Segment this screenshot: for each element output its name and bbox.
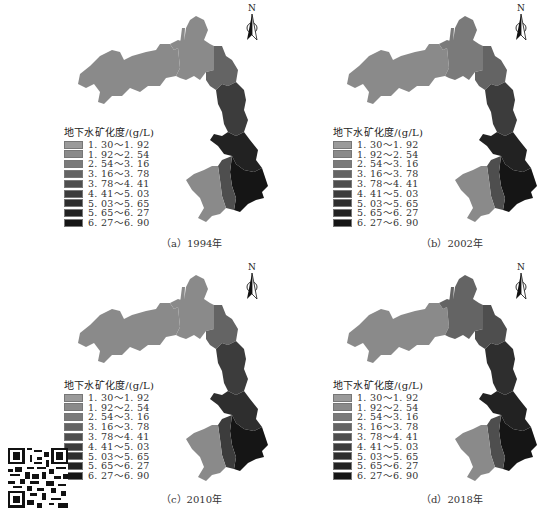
panel-caption-a: （a）1994年 [161, 235, 222, 250]
legend-swatch [333, 403, 352, 411]
legend-rows: 1. 30～1. 921. 92～2. 542. 54～3. 163. 16～3… [333, 140, 423, 228]
north-label: N [240, 262, 264, 272]
legend-swatch [64, 150, 83, 158]
north-arrow: N [509, 263, 533, 303]
legend-swatch [64, 433, 83, 441]
legend-label: 6. 27～6. 90 [88, 218, 150, 228]
legend-item: 6. 27～6. 90 [64, 218, 154, 228]
legend-swatch [333, 462, 352, 470]
legend: 地下水矿化度/(g/L) 1. 30～1. 921. 92～2. 542. 54… [64, 128, 154, 228]
legend-item: 6. 27～6. 90 [333, 471, 423, 481]
legend: 地下水矿化度/(g/L) 1. 30～1. 921. 92～2. 542. 54… [333, 128, 423, 228]
legend-swatch [333, 433, 352, 441]
legend-swatch [64, 160, 83, 168]
map-panel-b: N 地下水矿化度/(g/L) 1. 30～1. 921. 92～2. 542. … [269, 0, 537, 259]
legend-swatch [333, 443, 352, 451]
legend-swatch [64, 180, 83, 188]
panel-caption-b: （b）2002年 [421, 235, 483, 250]
legend-item: 6. 27～6. 90 [333, 218, 423, 228]
zone-east-upper [485, 341, 517, 395]
legend-swatch [64, 403, 83, 411]
panel-caption-d: （d）2018年 [421, 491, 483, 506]
qr-code[interactable] [8, 447, 68, 508]
legend-title: 地下水矿化度/(g/L) [333, 128, 423, 138]
legend-swatch [64, 199, 83, 207]
legend-title: 地下水矿化度/(g/L) [64, 381, 154, 391]
legend-swatch [333, 452, 352, 460]
zone-west [347, 44, 449, 104]
legend-swatch [333, 170, 352, 178]
zone-west [347, 303, 449, 363]
legend-swatch [64, 413, 83, 421]
legend-swatch [64, 394, 83, 402]
legend-label: 6. 27～6. 90 [357, 471, 419, 481]
zone-east-upper [216, 341, 248, 395]
legend-item: 6. 27～6. 90 [64, 471, 154, 481]
legend-swatch [64, 209, 83, 217]
legend-swatch [64, 141, 83, 149]
zone-west [78, 44, 180, 104]
legend-swatch [333, 160, 352, 168]
legend-swatch [333, 180, 352, 188]
map-panel-d: N 地下水矿化度/(g/L) 1. 30～1. 921. 92～2. 542. … [269, 259, 537, 518]
legend-swatch [333, 199, 352, 207]
legend-swatch [333, 413, 352, 421]
legend-swatch [333, 150, 352, 158]
legend-swatch [333, 472, 352, 480]
legend-swatch [333, 219, 352, 227]
zone-east-upper [485, 82, 517, 136]
legend-rows: 1. 30～1. 921. 92～2. 542. 54～3. 163. 16～3… [64, 140, 154, 228]
legend: 地下水矿化度/(g/L) 1. 30～1. 921. 92～2. 542. 54… [333, 381, 423, 481]
legend-swatch [333, 209, 352, 217]
legend: 地下水矿化度/(g/L) 1. 30～1. 921. 92～2. 542. 54… [64, 381, 154, 481]
legend-swatch [333, 423, 352, 431]
north-label: N [509, 262, 533, 272]
zone-west [78, 303, 180, 363]
legend-rows: 1. 30～1. 921. 92～2. 542. 54～3. 163. 16～3… [333, 393, 423, 481]
legend-title: 地下水矿化度/(g/L) [333, 381, 423, 391]
legend-label: 6. 27～6. 90 [357, 218, 419, 228]
panel-caption-c: （c）2010年 [161, 491, 222, 506]
legend-rows: 1. 30～1. 921. 92～2. 542. 54～3. 163. 16～3… [64, 393, 154, 481]
north-label: N [240, 3, 264, 13]
legend-swatch [333, 190, 352, 198]
legend-label: 6. 27～6. 90 [88, 471, 150, 481]
north-arrow: N [240, 263, 264, 303]
legend-swatch [64, 423, 83, 431]
legend-swatch [64, 219, 83, 227]
map-panel-a: N 地下水矿化度/(g/L) 1. 30～1. 921. 92～2. 542. … [0, 0, 268, 259]
legend-title: 地下水矿化度/(g/L) [64, 128, 154, 138]
legend-swatch [64, 170, 83, 178]
north-arrow: N [509, 4, 533, 44]
north-arrow: N [240, 4, 264, 44]
north-label: N [509, 3, 533, 13]
zone-east-upper [216, 82, 248, 136]
legend-swatch [333, 141, 352, 149]
legend-swatch [64, 190, 83, 198]
legend-swatch [333, 394, 352, 402]
